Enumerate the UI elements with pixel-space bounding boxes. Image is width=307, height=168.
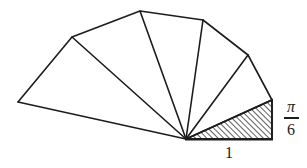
base-length-label: 1 bbox=[214, 145, 244, 161]
angle-label-pi-over-six: π 6 bbox=[278, 99, 304, 138]
angle-numerator: π bbox=[278, 99, 304, 116]
fraction-bar bbox=[284, 117, 299, 119]
angle-denominator: 6 bbox=[278, 121, 304, 138]
triangle-fan-diagram bbox=[0, 0, 307, 168]
figure-canvas: π 6 1 bbox=[0, 0, 307, 168]
